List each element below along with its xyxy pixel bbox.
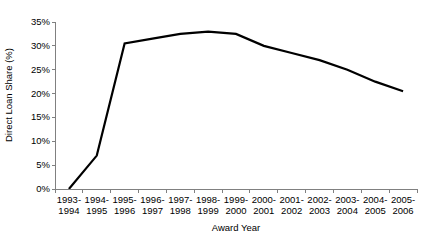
y-tick-label: 0%	[18, 184, 50, 194]
plot-area	[55, 22, 417, 189]
y-tick-label: 25%	[18, 65, 50, 75]
x-tick-label-line1: 1995-	[111, 194, 139, 205]
data-series-direct-loan-share	[55, 22, 417, 189]
y-tick-label: 20%	[18, 89, 50, 99]
x-tick-label-line1: 1996-	[139, 194, 167, 205]
x-tick-label-line2: 1998	[166, 205, 194, 216]
x-tick-label-line1: 2003-	[333, 194, 361, 205]
series-line	[69, 32, 403, 189]
y-tick-label: 30%	[18, 41, 50, 51]
x-tick-label-line1: 2005-	[389, 194, 417, 205]
x-tick-label-line2: 1995	[83, 205, 111, 216]
x-tick-label: 2003-2004	[333, 194, 361, 220]
x-tick-label: 2001-2002	[278, 194, 306, 220]
x-tick-label-line1: 2000-	[250, 194, 278, 205]
x-tick-label-line1: 2001-	[278, 194, 306, 205]
y-tick-label: 35%	[18, 17, 50, 27]
x-tick-label-line2: 2001	[250, 205, 278, 216]
x-tick-label-line1: 2004-	[361, 194, 389, 205]
x-tick-label: 2005-2006	[389, 194, 417, 220]
x-tick-label: 1998-1999	[194, 194, 222, 220]
x-tick-label: 1997-1998	[166, 194, 194, 220]
x-tick-label: 1993-1994	[55, 194, 83, 220]
x-tick-label-line2: 1997	[139, 205, 167, 216]
x-tick-label: 2000-2001	[250, 194, 278, 220]
y-tick-label: 15%	[18, 112, 50, 122]
x-tick-label-line2: 2002	[278, 205, 306, 216]
x-tick-label-line1: 1999-	[222, 194, 250, 205]
x-tick-label: 1995-1996	[111, 194, 139, 220]
x-tick-label-line2: 2000	[222, 205, 250, 216]
y-tick-label: 5%	[18, 160, 50, 170]
x-tick-label: 1999-2000	[222, 194, 250, 220]
x-tick-label: 2004-2005	[361, 194, 389, 220]
x-tick-label-line2: 2006	[389, 205, 417, 216]
x-tick-label: 1994-1995	[83, 194, 111, 220]
x-tick-label-line1: 1998-	[194, 194, 222, 205]
x-tick-label-line2: 1996	[111, 205, 139, 216]
x-tick-label-line1: 1993-	[55, 194, 83, 205]
x-axis-tick-labels: 1993-19941994-19951995-19961996-19971997…	[55, 194, 417, 220]
x-tick-label: 1996-1997	[139, 194, 167, 220]
x-tick-label-line1: 1997-	[166, 194, 194, 205]
x-tick-label-line1: 2002-	[306, 194, 334, 205]
x-tick-label-line2: 2005	[361, 205, 389, 216]
y-axis-title: Direct Loan Share (%)	[2, 0, 16, 190]
x-axis-title: Award Year	[55, 222, 417, 234]
x-tick-label-line1: 1994-	[83, 194, 111, 205]
x-tick-label-line2: 2004	[333, 205, 361, 216]
x-tick-label: 2002-2003	[306, 194, 334, 220]
y-tick-label: 10%	[18, 136, 50, 146]
x-tick-label-line2: 1999	[194, 205, 222, 216]
x-tick-label-line2: 1994	[55, 205, 83, 216]
line-chart: Direct Loan Share (%) 0%5%10%15%20%25%30…	[0, 0, 424, 247]
y-axis-tick-labels: 0%5%10%15%20%25%30%35%	[18, 0, 50, 247]
x-tick-label-line2: 2003	[306, 205, 334, 216]
